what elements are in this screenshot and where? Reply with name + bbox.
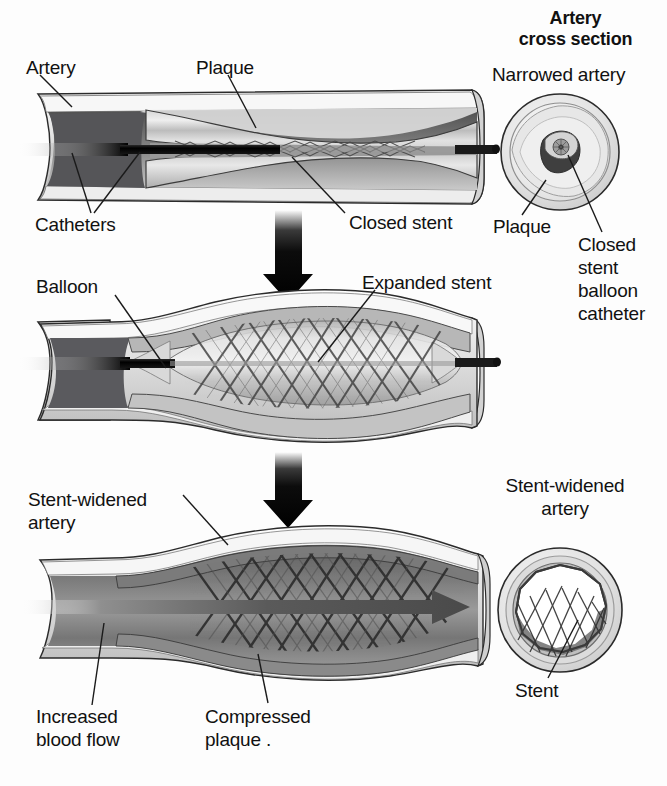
expanded-stent-mesh	[170, 292, 456, 436]
catheter-inner	[120, 145, 280, 154]
label-artery: Artery	[26, 57, 75, 79]
blood-flow-arrow	[20, 590, 470, 624]
label-cs2-title-line2: artery	[490, 498, 640, 520]
label-cs-closed-line3: balloon	[578, 280, 638, 302]
label-narrowed-artery: Narrowed artery	[492, 64, 625, 86]
label-cs-closed-line1: Closed	[578, 234, 636, 256]
label-increased-blood-flow-line1: Increased	[36, 706, 118, 728]
label-stent-widened-artery-line1: Stent-widened	[28, 489, 147, 511]
illustration-layer	[0, 0, 667, 786]
label-increased-blood-flow-line2: blood flow	[36, 729, 120, 751]
label-cs-closed-line4: catheter	[578, 303, 645, 325]
cross-section-stent-widened-artery	[498, 548, 622, 672]
cross-section-heading-line2: cross section	[493, 29, 658, 50]
label-expanded-stent: Expanded stent	[362, 272, 491, 294]
panel-1-illustration	[18, 90, 500, 204]
label-closed-stent: Closed stent	[349, 212, 452, 234]
label-cs2-title-line1: Stent-widened	[490, 475, 640, 497]
flow-arrow-step1-to-step2	[263, 210, 313, 302]
panel-3-illustration	[20, 526, 490, 680]
leader-lines	[40, 75, 602, 705]
label-balloon: Balloon	[36, 276, 98, 298]
flow-arrow-step2-to-step3	[263, 452, 313, 528]
label-compressed-plaque-line1: Compressed	[205, 706, 311, 728]
cross-section-narrowed-artery	[501, 94, 619, 210]
cross-section-heading-line1: Artery	[493, 8, 658, 29]
label-compressed-plaque-line2: plaque .	[205, 729, 271, 751]
stent-diagram-figure: Artery cross section Artery Plaque Cathe…	[0, 0, 667, 786]
label-stent: Stent	[515, 680, 558, 702]
label-cs-closed-line2: stent	[578, 257, 618, 279]
label-catheters: Catheters	[35, 214, 116, 236]
label-stent-widened-artery-line2: artery	[28, 512, 75, 534]
catheter-outer	[18, 143, 128, 156]
label-plaque: Plaque	[196, 57, 254, 79]
guidewire-right	[455, 145, 497, 154]
label-cs-plaque: Plaque	[493, 216, 551, 238]
deployed-stent-mesh	[175, 532, 462, 672]
guidewire-right-2	[455, 358, 497, 367]
closed-stent-mesh	[170, 141, 425, 157]
catheter-outer-2	[18, 357, 130, 370]
panel-2-illustration	[18, 290, 501, 442]
